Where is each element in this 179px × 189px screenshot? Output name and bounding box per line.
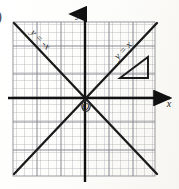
- x-axis-label: x: [166, 98, 172, 109]
- coordinate-graph-figure: y x y = -x y = x O: [0, 0, 179, 189]
- origin-label: O: [82, 101, 89, 112]
- y-axis-label: y: [75, 8, 81, 20]
